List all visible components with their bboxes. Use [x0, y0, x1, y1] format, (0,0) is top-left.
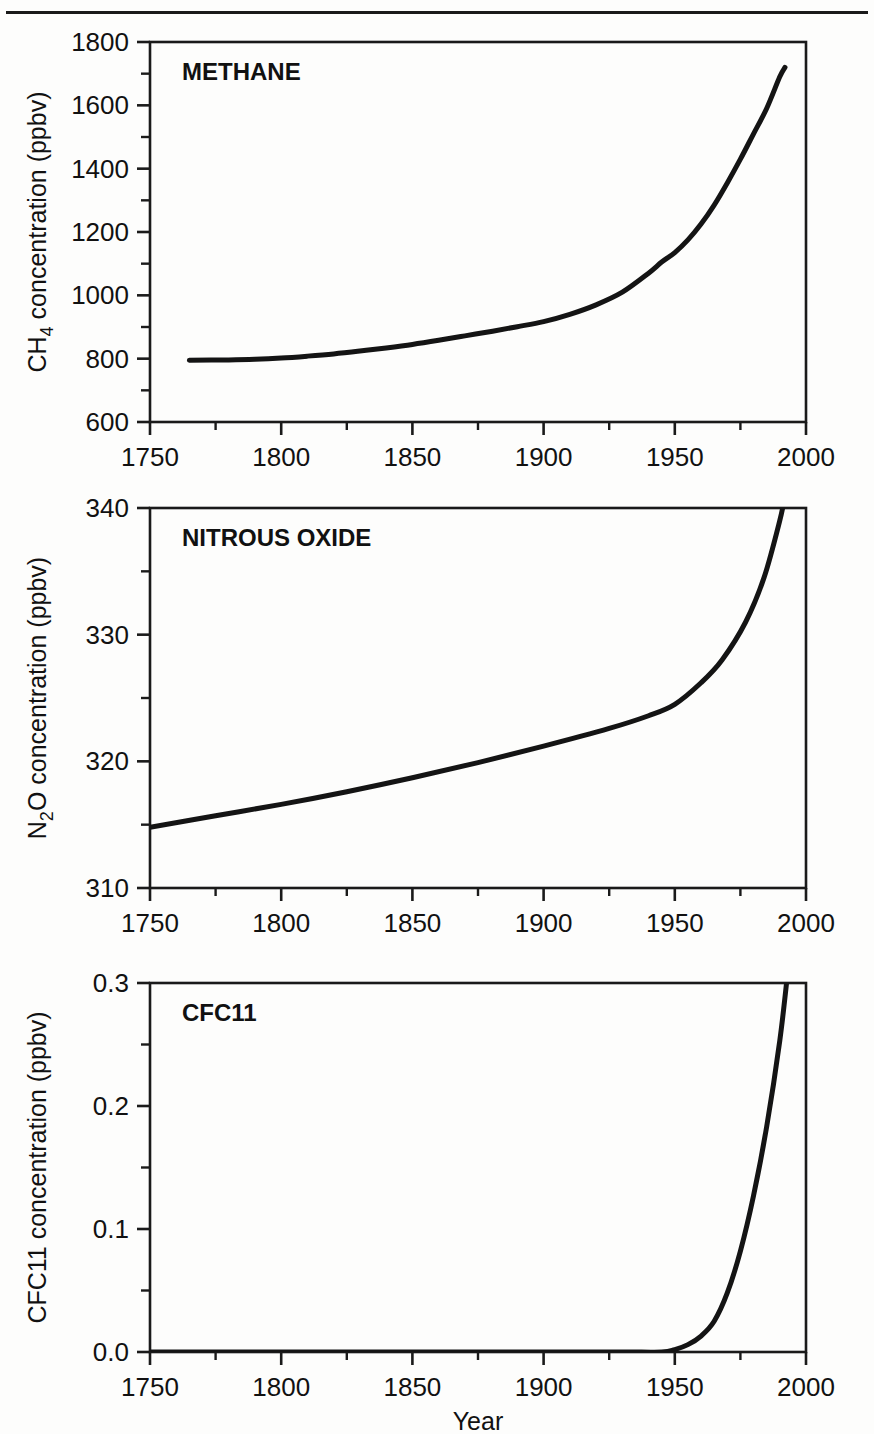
plot-frame: [150, 508, 806, 888]
y-tick-label: 310: [86, 873, 129, 903]
x-tick-label: 2000: [777, 1372, 835, 1402]
chart-svg-0: 6008001000120014001600180017501800185019…: [0, 0, 874, 478]
data-curve: [150, 973, 788, 1352]
panel-title: CFC11: [182, 999, 257, 1026]
chart-panel-methane: 6008001000120014001600180017501800185019…: [0, 0, 874, 478]
y-tick-label: 340: [86, 493, 129, 523]
panel-title: METHANE: [182, 58, 301, 85]
chart-svg-2: 0.00.10.20.3175018001850190019502000Year…: [0, 941, 874, 1434]
y-axis-title: CH4 concentration (ppbv): [23, 92, 57, 373]
y-tick-label: 0.1: [93, 1214, 129, 1244]
y-tick-label: 1600: [71, 90, 129, 120]
figure-page: 6008001000120014001600180017501800185019…: [0, 0, 874, 1434]
y-tick-label: 1400: [71, 154, 129, 184]
x-tick-label: 1850: [383, 1372, 441, 1402]
y-tick-label: 1200: [71, 217, 129, 247]
plot-frame: [150, 42, 806, 422]
x-tick-label: 2000: [777, 908, 835, 938]
y-tick-label: 330: [86, 620, 129, 650]
x-tick-label: 1950: [646, 908, 704, 938]
y-axis-title: CFC11 concentration (ppbv): [23, 1011, 51, 1323]
y-tick-label: 800: [86, 344, 129, 374]
chart-panel-cfc11: 0.00.10.20.3175018001850190019502000Year…: [0, 941, 874, 1434]
y-tick-label: 1800: [71, 27, 129, 57]
chart-panel-nitrous-oxide: 310320330340175018001850190019502000Year…: [0, 466, 874, 944]
x-axis-title: Year: [453, 1407, 504, 1434]
x-tick-label: 1950: [646, 1372, 704, 1402]
x-tick-label: 1800: [252, 908, 310, 938]
data-curve: [189, 67, 785, 360]
y-tick-label: 1000: [71, 280, 129, 310]
plot-frame: [150, 983, 806, 1352]
x-tick-label: 1800: [252, 1372, 310, 1402]
y-tick-label: 320: [86, 746, 129, 776]
y-tick-label: 600: [86, 407, 129, 437]
x-tick-label: 1900: [515, 1372, 573, 1402]
y-tick-label: 0.0: [93, 1337, 129, 1367]
panel-title: NITROUS OXIDE: [182, 524, 371, 551]
x-tick-label: 1750: [121, 908, 179, 938]
y-axis-title: N2O concentration (ppbv): [23, 557, 57, 839]
x-tick-label: 1900: [515, 908, 573, 938]
y-tick-label: 0.3: [93, 968, 129, 998]
x-tick-label: 1750: [121, 1372, 179, 1402]
y-tick-label: 0.2: [93, 1091, 129, 1121]
chart-svg-1: 310320330340175018001850190019502000Year…: [0, 466, 874, 944]
x-tick-label: 1850: [383, 908, 441, 938]
